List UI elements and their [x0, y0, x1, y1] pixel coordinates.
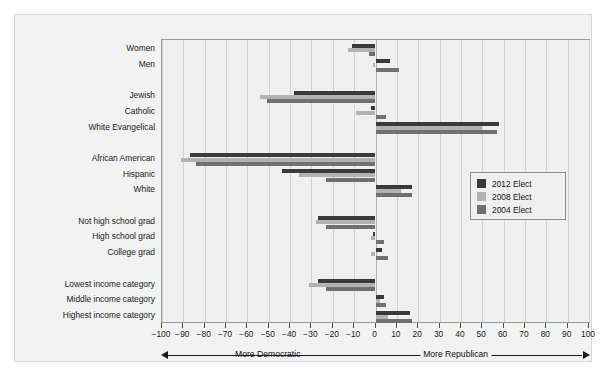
- x-axis-tick: [545, 323, 546, 328]
- legend-swatch-icon: [477, 192, 486, 201]
- gridline: [183, 40, 184, 322]
- bar-2004: [267, 99, 376, 103]
- x-axis-tick-label: −50: [261, 329, 275, 339]
- x-axis-tick: [503, 323, 504, 328]
- bar-2004: [196, 162, 375, 166]
- y-axis-label: Men: [139, 59, 155, 68]
- x-axis-tick-label: 70: [519, 329, 528, 339]
- x-axis-tick: [225, 323, 226, 328]
- x-axis-tick-label: −70: [218, 329, 232, 339]
- x-axis-tick: [417, 323, 418, 328]
- x-axis-tick-label: 30: [434, 329, 443, 339]
- right-arrow-line: [167, 355, 582, 356]
- y-axis-label: White: [134, 185, 155, 194]
- x-axis-tick: [289, 323, 290, 328]
- gridline: [311, 40, 312, 322]
- legend-swatch-icon: [477, 179, 486, 188]
- x-axis-tick-label: 40: [455, 329, 464, 339]
- x-axis-tick-label: 90: [562, 329, 571, 339]
- x-axis-tick-label: −100: [152, 329, 171, 339]
- bar-2004: [326, 178, 375, 182]
- bar-2004: [376, 240, 385, 244]
- x-axis-tick: [310, 323, 311, 328]
- more-republican-label: More Republican: [420, 349, 491, 359]
- x-axis-tick-label: 10: [391, 329, 400, 339]
- legend-label: 2012 Elect: [492, 179, 532, 189]
- gridline: [568, 40, 569, 322]
- gridline: [397, 40, 398, 322]
- x-axis-tick-label: 50: [477, 329, 486, 339]
- gridline: [247, 40, 248, 322]
- gridline: [226, 40, 227, 322]
- x-axis-tick-label: 0: [372, 329, 377, 339]
- chart-screenshot: WomenMenJewishCatholicWhite EvangelicalA…: [0, 0, 606, 377]
- bar-2012: [376, 59, 391, 63]
- x-axis-tick: [268, 323, 269, 328]
- x-axis-tick: [161, 323, 162, 328]
- x-axis-tick-label: −90: [175, 329, 189, 339]
- x-axis-tick: [375, 323, 376, 328]
- gridline: [290, 40, 291, 322]
- zero-line: [376, 40, 377, 322]
- chart-legend: 2012 Elect2008 Elect2004 Elect: [470, 172, 566, 220]
- gridline: [205, 40, 206, 322]
- y-axis-labels: WomenMenJewishCatholicWhite EvangelicalA…: [29, 39, 159, 323]
- x-axis-tick: [204, 323, 205, 328]
- bar-2004: [376, 256, 389, 260]
- x-axis-tick: [396, 323, 397, 328]
- gridline: [418, 40, 419, 322]
- x-axis-tick-label: −30: [303, 329, 317, 339]
- legend-item: 2004 Elect: [477, 203, 559, 216]
- x-axis-tick-label: −20: [325, 329, 339, 339]
- bar-2004: [369, 52, 375, 56]
- axis-direction-annotations: More Democratic More Republican: [161, 346, 590, 366]
- bar-2004: [376, 68, 399, 72]
- gridline: [589, 40, 590, 322]
- gridline: [269, 40, 270, 322]
- x-axis-tick: [439, 323, 440, 328]
- x-axis-tick: [567, 323, 568, 328]
- bar-2004: [376, 303, 387, 307]
- y-axis-label: Highest income category: [63, 311, 155, 320]
- x-axis: −100−90−80−70−60−50−40−30−20−10010203040…: [161, 323, 590, 345]
- y-axis-label: Catholic: [125, 106, 155, 115]
- x-axis-tick: [182, 323, 183, 328]
- x-axis-tick: [524, 323, 525, 328]
- bar-2004: [376, 115, 387, 119]
- y-axis-label: Middle income category: [67, 295, 155, 304]
- x-axis-tick-label: 80: [541, 329, 550, 339]
- gridline: [162, 40, 163, 322]
- legend-item: 2012 Elect: [477, 177, 559, 190]
- bar-2004: [326, 287, 375, 291]
- gridline: [461, 40, 462, 322]
- legend-item: 2008 Elect: [477, 190, 559, 203]
- right-arrow-icon: [583, 351, 590, 359]
- legend-label: 2008 Elect: [492, 192, 532, 202]
- legend-label: 2004 Elect: [492, 205, 532, 215]
- more-democratic-label: More Democratic: [232, 349, 303, 359]
- x-axis-tick: [246, 323, 247, 328]
- y-axis-label: Hispanic: [123, 169, 155, 178]
- x-axis-tick-label: −60: [239, 329, 253, 339]
- y-axis-label: Women: [126, 44, 155, 53]
- y-axis-label: Jewish: [129, 91, 155, 100]
- x-axis-tick-label: −40: [282, 329, 296, 339]
- x-axis-tick: [332, 323, 333, 328]
- bar-2004: [326, 225, 375, 229]
- x-axis-tick-label: −10: [346, 329, 360, 339]
- x-axis-tick: [460, 323, 461, 328]
- y-axis-label: African American: [92, 153, 155, 162]
- x-axis-tick: [481, 323, 482, 328]
- x-axis-tick: [588, 323, 589, 328]
- x-axis-tick-label: −80: [197, 329, 211, 339]
- gridline: [440, 40, 441, 322]
- plot-area: 2012 Elect2008 Elect2004 Elect: [161, 39, 590, 323]
- y-axis-label: High school grad: [92, 232, 155, 241]
- chart-panel: WomenMenJewishCatholicWhite EvangelicalA…: [14, 14, 592, 362]
- y-axis-label: White Evangelical: [88, 122, 155, 131]
- x-axis-tick-label: 20: [413, 329, 422, 339]
- x-axis-tick: [353, 323, 354, 328]
- y-axis-label: College grad: [108, 248, 156, 257]
- y-axis-label: Lowest income category: [65, 279, 155, 288]
- bar-2004: [376, 130, 498, 134]
